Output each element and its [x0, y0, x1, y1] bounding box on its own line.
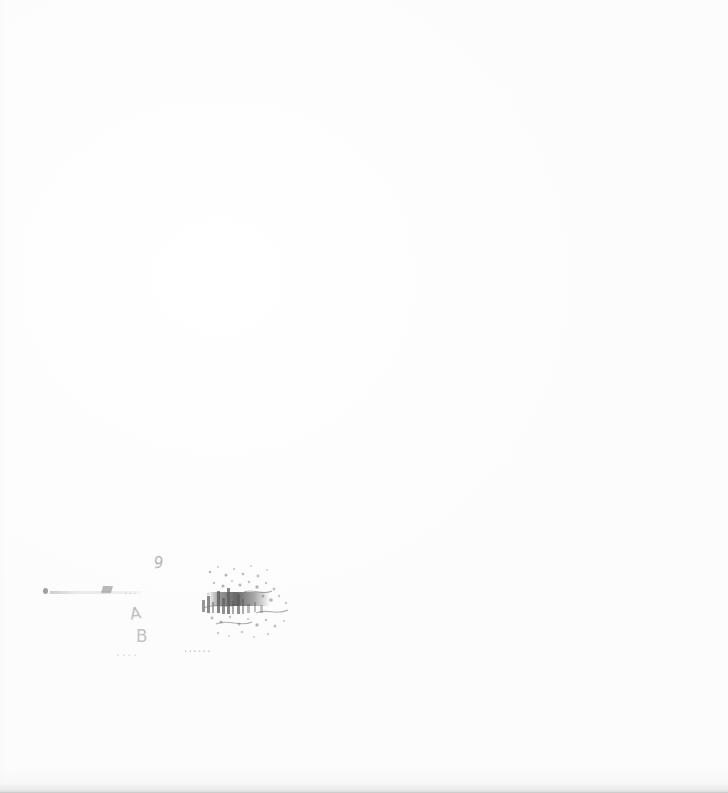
ink-fleck [43, 588, 48, 594]
ink-smear-tick [101, 586, 113, 593]
faded-annotation-cluster: 9 ... A B .... ...... [36, 548, 274, 666]
bottom-edge-scan-shadow [0, 767, 728, 793]
annotation-glyph-bottom-left: .... [116, 644, 139, 659]
paper-tone-artifact [0, 0, 728, 793]
faded-stamp-blot [196, 558, 300, 644]
annotation-glyph-a: A [129, 603, 143, 623]
annotation-glyph-upper: 9 [153, 554, 164, 573]
scanned-page: 9 ... A B .... ...... [0, 0, 728, 793]
left-margin-scan-strip [0, 0, 14, 793]
annotation-glyph-b: B [136, 626, 148, 646]
annotation-glyph-mid: ... [124, 584, 138, 597]
